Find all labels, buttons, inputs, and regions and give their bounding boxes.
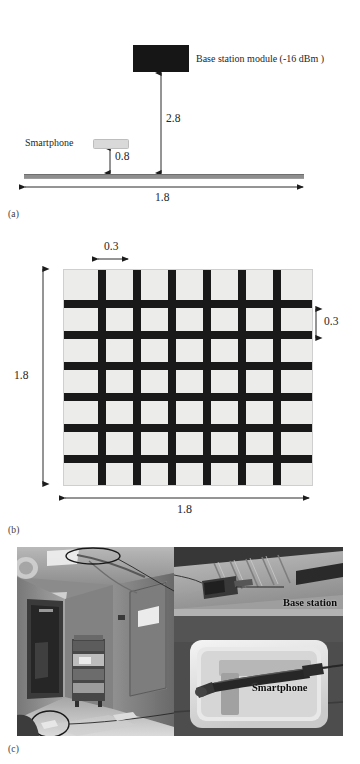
panel-tag-c: (c) xyxy=(8,744,19,754)
photo-collage: Base station xyxy=(17,547,343,736)
panel-b-grid-plan: 0.3 0.3 1.8 1.8 xyxy=(0,230,360,520)
panel-b-vector-layer xyxy=(0,230,360,520)
photo-caption-smartphone: Smartphone xyxy=(252,682,307,693)
photo-smartphone-content xyxy=(174,616,343,736)
dimension-label-bar-pitch-right: 0.3 xyxy=(324,315,338,327)
panel-a-side-view: Base station module (-16 dBm ) Smartphon… xyxy=(0,0,360,228)
base-station-module-box xyxy=(133,45,189,72)
dimension-label-grid-width: 1.8 xyxy=(177,502,192,517)
dimension-label-1p8-width: 1.8 xyxy=(155,191,169,203)
photo-base-station: Base station xyxy=(174,547,343,616)
smartphone-label: Smartphone xyxy=(25,137,73,148)
dimension-label-2p8: 2.8 xyxy=(166,112,180,124)
base-station-module-label: Base station module (-16 dBm ) xyxy=(196,53,324,64)
photo-corridor-content xyxy=(17,547,174,736)
dimension-label-0p8: 0.8 xyxy=(115,150,129,162)
panel-c-photographs: Base station xyxy=(0,520,360,764)
dimension-label-grid-height: 1.8 xyxy=(14,369,28,381)
photo-caption-base-station: Base station xyxy=(283,597,337,608)
photo-corridor xyxy=(17,547,174,736)
panel-tag-a: (a) xyxy=(8,209,19,219)
photo-smartphone: Smartphone xyxy=(174,616,343,736)
ground-line xyxy=(24,174,304,179)
dimension-label-bar-pitch-top: 0.3 xyxy=(104,240,118,252)
figure-root: Base station module (-16 dBm ) Smartphon… xyxy=(0,0,360,764)
smartphone-box xyxy=(93,139,129,149)
